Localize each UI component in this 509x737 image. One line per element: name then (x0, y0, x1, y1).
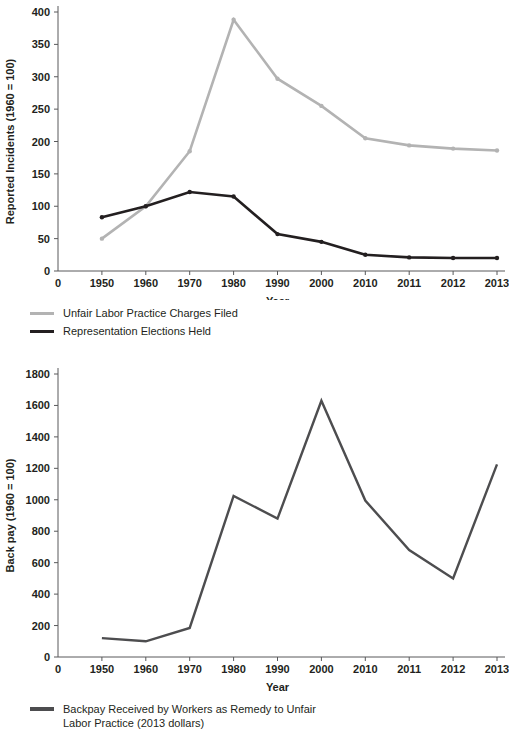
y-tick-label: 100 (32, 200, 50, 212)
x-tick-label: 1990 (265, 277, 289, 289)
legend-swatch-icon (30, 702, 54, 716)
series-point (188, 190, 192, 194)
series-point (100, 236, 104, 240)
chart-reported-incidents: 0501001502002503003504000195019601970198… (0, 0, 509, 300)
y-axis-title: Back pay (1960 = 100) (4, 458, 16, 572)
legend-item: Representation Elections Held (30, 324, 450, 338)
y-tick-label: 200 (32, 136, 50, 148)
x-tick-label: 0 (55, 277, 61, 289)
series-point (451, 146, 455, 150)
legend-item: Backpay Received by Workers as Remedy to… (30, 702, 460, 730)
y-tick-label: 1200 (26, 462, 50, 474)
series-point (319, 104, 323, 108)
chart-top-canvas: 0501001502002503003504000195019601970198… (0, 0, 509, 300)
legend-bottom: Backpay Received by Workers as Remedy to… (30, 702, 460, 734)
series-point (275, 76, 279, 80)
x-tick-label: 1960 (134, 277, 158, 289)
series-point (231, 18, 235, 22)
x-tick-label: 2013 (485, 277, 509, 289)
x-tick-label: 2012 (441, 277, 465, 289)
series-point (407, 255, 411, 259)
y-axis-title: Reported Incidents (1960 = 100) (4, 58, 16, 224)
y-tick-label: 1400 (26, 431, 50, 443)
y-tick-label: 50 (38, 233, 50, 245)
y-tick-label: 0 (44, 651, 50, 663)
legend-top: Unfair Labor Practice Charges FiledRepre… (30, 306, 450, 342)
series-line-1 (102, 192, 497, 258)
legend-item: Unfair Labor Practice Charges Filed (30, 306, 450, 320)
y-tick-label: 1000 (26, 494, 50, 506)
series-point (363, 136, 367, 140)
x-axis-title: Year (266, 681, 290, 693)
series-point (144, 204, 148, 208)
chart-back-pay: 0200400600800100012001400160018000195019… (0, 352, 509, 697)
x-axis-title: Year (266, 295, 290, 300)
legend-label: Backpay Received by Workers as Remedy to… (63, 702, 316, 730)
x-tick-label: 2000 (309, 663, 333, 675)
series-line-0 (102, 20, 497, 239)
x-tick-label: 1960 (134, 663, 158, 675)
series-point (451, 256, 455, 260)
x-tick-label: 2013 (485, 663, 509, 675)
x-tick-label: 1980 (221, 663, 245, 675)
y-tick-label: 1600 (26, 399, 50, 411)
figure-page: 0501001502002503003504000195019601970198… (0, 0, 509, 737)
x-tick-label: 2011 (397, 277, 421, 289)
y-tick-label: 0 (44, 265, 50, 277)
y-tick-label: 200 (32, 620, 50, 632)
y-tick-label: 350 (32, 38, 50, 50)
series-point (407, 143, 411, 147)
y-tick-label: 400 (32, 588, 50, 600)
y-tick-label: 400 (32, 6, 50, 18)
x-tick-label: 1970 (177, 663, 201, 675)
series-point (275, 232, 279, 236)
x-tick-label: 2011 (397, 663, 421, 675)
series-point (188, 149, 192, 153)
x-tick-label: 2010 (353, 277, 377, 289)
x-tick-label: 1950 (90, 277, 114, 289)
legend-swatch-icon (30, 306, 54, 320)
y-tick-label: 800 (32, 525, 50, 537)
y-tick-label: 300 (32, 71, 50, 83)
x-tick-label: 2010 (353, 663, 377, 675)
series-point (495, 148, 499, 152)
legend-label: Unfair Labor Practice Charges Filed (63, 306, 238, 320)
x-tick-label: 1990 (265, 663, 289, 675)
y-tick-label: 1800 (26, 368, 50, 380)
chart-bottom-canvas: 0200400600800100012001400160018000195019… (0, 352, 509, 697)
x-tick-label: 1980 (221, 277, 245, 289)
series-line-0 (102, 401, 497, 642)
y-tick-label: 250 (32, 103, 50, 115)
x-tick-label: 2000 (309, 277, 333, 289)
x-tick-label: 1970 (177, 277, 201, 289)
series-point (231, 194, 235, 198)
x-tick-label: 2012 (441, 663, 465, 675)
legend-label: Representation Elections Held (63, 324, 211, 338)
y-tick-label: 600 (32, 557, 50, 569)
x-tick-label: 0 (55, 663, 61, 675)
y-tick-label: 150 (32, 168, 50, 180)
legend-swatch-icon (30, 324, 54, 338)
series-point (363, 253, 367, 257)
series-point (100, 215, 104, 219)
series-point (495, 256, 499, 260)
series-point (319, 240, 323, 244)
x-tick-label: 1950 (90, 663, 114, 675)
